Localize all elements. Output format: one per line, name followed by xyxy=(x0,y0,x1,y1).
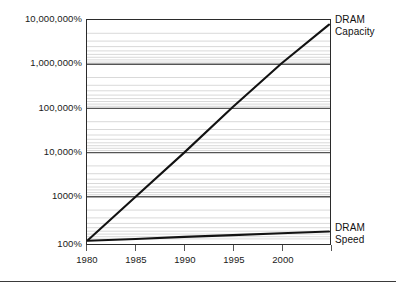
y-axis-tick-label: 10,000% xyxy=(44,147,82,157)
x-axis-tick-label: 1985 xyxy=(113,254,159,265)
y-axis-tick-label: 1,000,000% xyxy=(30,58,82,68)
series-line-dram-capacity xyxy=(88,25,329,241)
y-axis-tick-label: 100,000% xyxy=(38,103,82,113)
series-label-line1: DRAM xyxy=(335,222,365,233)
series-label-dram-capacity: DRAM Capacity xyxy=(335,14,375,38)
x-axis-tick-label: 2000 xyxy=(260,254,306,265)
y-axis-tick-label: 10,000,000% xyxy=(25,14,82,24)
x-axis-tick-label: 1995 xyxy=(211,254,257,265)
series-label-line1: DRAM xyxy=(335,14,365,25)
chart-canvas xyxy=(87,20,330,244)
dram-capacity-vs-speed-chart: 10,000,000% 1,000,000% 100,000% 10,000% … xyxy=(0,0,396,287)
series-label-line2: Speed xyxy=(335,234,365,246)
series-line-dram-speed xyxy=(88,232,329,241)
x-axis-tick-label: 1990 xyxy=(162,254,208,265)
series-label-dram-speed: DRAM Speed xyxy=(335,222,365,246)
x-axis-tick-label: 1980 xyxy=(64,254,110,265)
plot-area xyxy=(86,19,331,245)
y-axis-tick-label: 100% xyxy=(57,239,82,249)
x-axis-tick-marks xyxy=(84,245,334,253)
page-divider-rule xyxy=(0,281,396,282)
series-label-line2: Capacity xyxy=(335,26,375,38)
y-axis-tick-label: 1000% xyxy=(52,191,82,201)
